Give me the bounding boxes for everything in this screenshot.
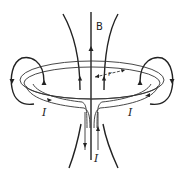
left-field-loop — [11, 58, 44, 105]
inner-right-arrow-icon — [102, 76, 106, 81]
wire-down-arrow-icon — [83, 143, 87, 148]
central-field-line — [89, 12, 94, 160]
radius-label: r — [108, 70, 112, 78]
current-label-bottom: I — [93, 152, 99, 165]
right-loop-arrow-down-icon — [170, 79, 175, 84]
right-loop-arrow-up-icon — [138, 80, 143, 85]
left-loop-arrow-up-icon — [42, 80, 47, 85]
loop-current-arrow-right-icon — [145, 93, 150, 97]
current-label-right: I — [127, 106, 133, 119]
current-loop-diagram: B r I I I — [0, 0, 184, 172]
field-label: B — [96, 21, 103, 32]
current-label-left: I — [41, 106, 47, 119]
left-loop-arrow-down-icon — [10, 79, 15, 84]
inner-left-arrow-icon — [78, 76, 82, 81]
right-field-loop — [140, 58, 173, 105]
